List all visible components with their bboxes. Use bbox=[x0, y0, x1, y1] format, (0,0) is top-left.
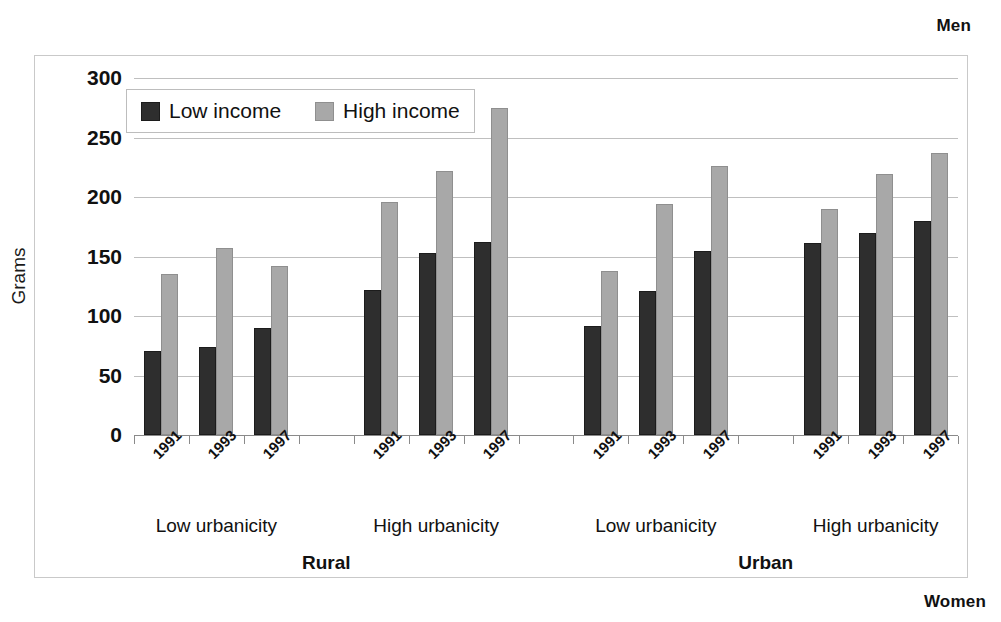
axis-tick-9 bbox=[628, 436, 629, 444]
bar-urban-high-1997-low-income bbox=[914, 221, 931, 435]
y-axis-title: Grams bbox=[8, 196, 30, 356]
y-tick-label-150: 150 bbox=[52, 245, 122, 269]
bar-urban-high-1993-low-income bbox=[859, 233, 876, 435]
axis-tick-4 bbox=[354, 436, 355, 444]
axis-tick-2 bbox=[244, 436, 245, 444]
bar-rural-low-1997-low-income bbox=[254, 328, 271, 435]
bar-urban-low-1991-low-income bbox=[584, 326, 601, 435]
bar-urban-low-1991-high-income bbox=[601, 271, 618, 435]
axis-tick-0 bbox=[134, 436, 135, 444]
gridline-250 bbox=[134, 138, 958, 139]
legend-label-high-income: High income bbox=[343, 99, 460, 123]
bar-urban-low-1997-high-income bbox=[711, 166, 728, 435]
area-label-urban: Urban bbox=[738, 552, 793, 574]
bar-rural-low-1993-low-income bbox=[199, 347, 216, 435]
caption-men: Men bbox=[936, 16, 971, 36]
y-tick-label-0: 0 bbox=[52, 423, 122, 447]
legend-swatch-low-income-icon bbox=[141, 102, 160, 121]
axis-tick-1 bbox=[189, 436, 190, 444]
axis-tick-10 bbox=[683, 436, 684, 444]
bar-urban-high-1991-high-income bbox=[821, 209, 838, 435]
legend-swatch-high-income-icon bbox=[315, 102, 334, 121]
bar-urban-low-1997-low-income bbox=[694, 251, 711, 435]
bar-rural-high-1997-low-income bbox=[474, 242, 491, 435]
axis-tick-3 bbox=[299, 436, 300, 444]
axis-tick-5 bbox=[409, 436, 410, 444]
axis-tick-6 bbox=[464, 436, 465, 444]
bar-rural-high-1991-low-income bbox=[364, 290, 381, 435]
y-tick-label-200: 200 bbox=[52, 185, 122, 209]
y-tick-label-100: 100 bbox=[52, 304, 122, 328]
bar-urban-low-1993-high-income bbox=[656, 204, 673, 435]
bar-urban-high-1991-low-income bbox=[804, 243, 821, 435]
legend-item-high-income: High income bbox=[315, 99, 460, 123]
bar-urban-high-1993-high-income bbox=[876, 174, 893, 435]
axis-tick-8 bbox=[573, 436, 574, 444]
chart-legend: Low income High income bbox=[126, 89, 475, 133]
axis-tick-12 bbox=[793, 436, 794, 444]
gridline-200 bbox=[134, 197, 958, 198]
area-label-rural: Rural bbox=[302, 552, 351, 574]
axis-tick-15 bbox=[958, 436, 959, 444]
bar-rural-high-1997-high-income bbox=[491, 108, 508, 435]
y-tick-label-250: 250 bbox=[52, 126, 122, 150]
legend-item-low-income: Low income bbox=[141, 99, 281, 123]
urbanicity-label-1: High urbanicity bbox=[373, 515, 499, 537]
bar-rural-high-1993-low-income bbox=[419, 253, 436, 435]
urbanicity-label-2: Low urbanicity bbox=[595, 515, 716, 537]
y-tick-label-50: 50 bbox=[52, 364, 122, 388]
axis-tick-14 bbox=[903, 436, 904, 444]
bar-rural-low-1991-low-income bbox=[144, 351, 161, 435]
urbanicity-label-3: High urbanicity bbox=[813, 515, 939, 537]
bar-rural-high-1991-high-income bbox=[381, 202, 398, 435]
urbanicity-label-0: Low urbanicity bbox=[156, 515, 277, 537]
caption-women: Women bbox=[924, 592, 986, 612]
bar-urban-high-1997-high-income bbox=[931, 153, 948, 435]
bar-urban-low-1993-low-income bbox=[639, 291, 656, 435]
bar-rural-high-1993-high-income bbox=[436, 171, 453, 435]
bar-rural-low-1997-high-income bbox=[271, 266, 288, 435]
axis-tick-13 bbox=[848, 436, 849, 444]
gridline-300 bbox=[134, 78, 958, 79]
bar-rural-low-1991-high-income bbox=[161, 274, 178, 435]
y-tick-label-300: 300 bbox=[52, 66, 122, 90]
legend-label-low-income: Low income bbox=[169, 99, 281, 123]
axis-tick-7 bbox=[519, 436, 520, 444]
bar-rural-low-1993-high-income bbox=[216, 248, 233, 435]
axis-tick-11 bbox=[738, 436, 739, 444]
